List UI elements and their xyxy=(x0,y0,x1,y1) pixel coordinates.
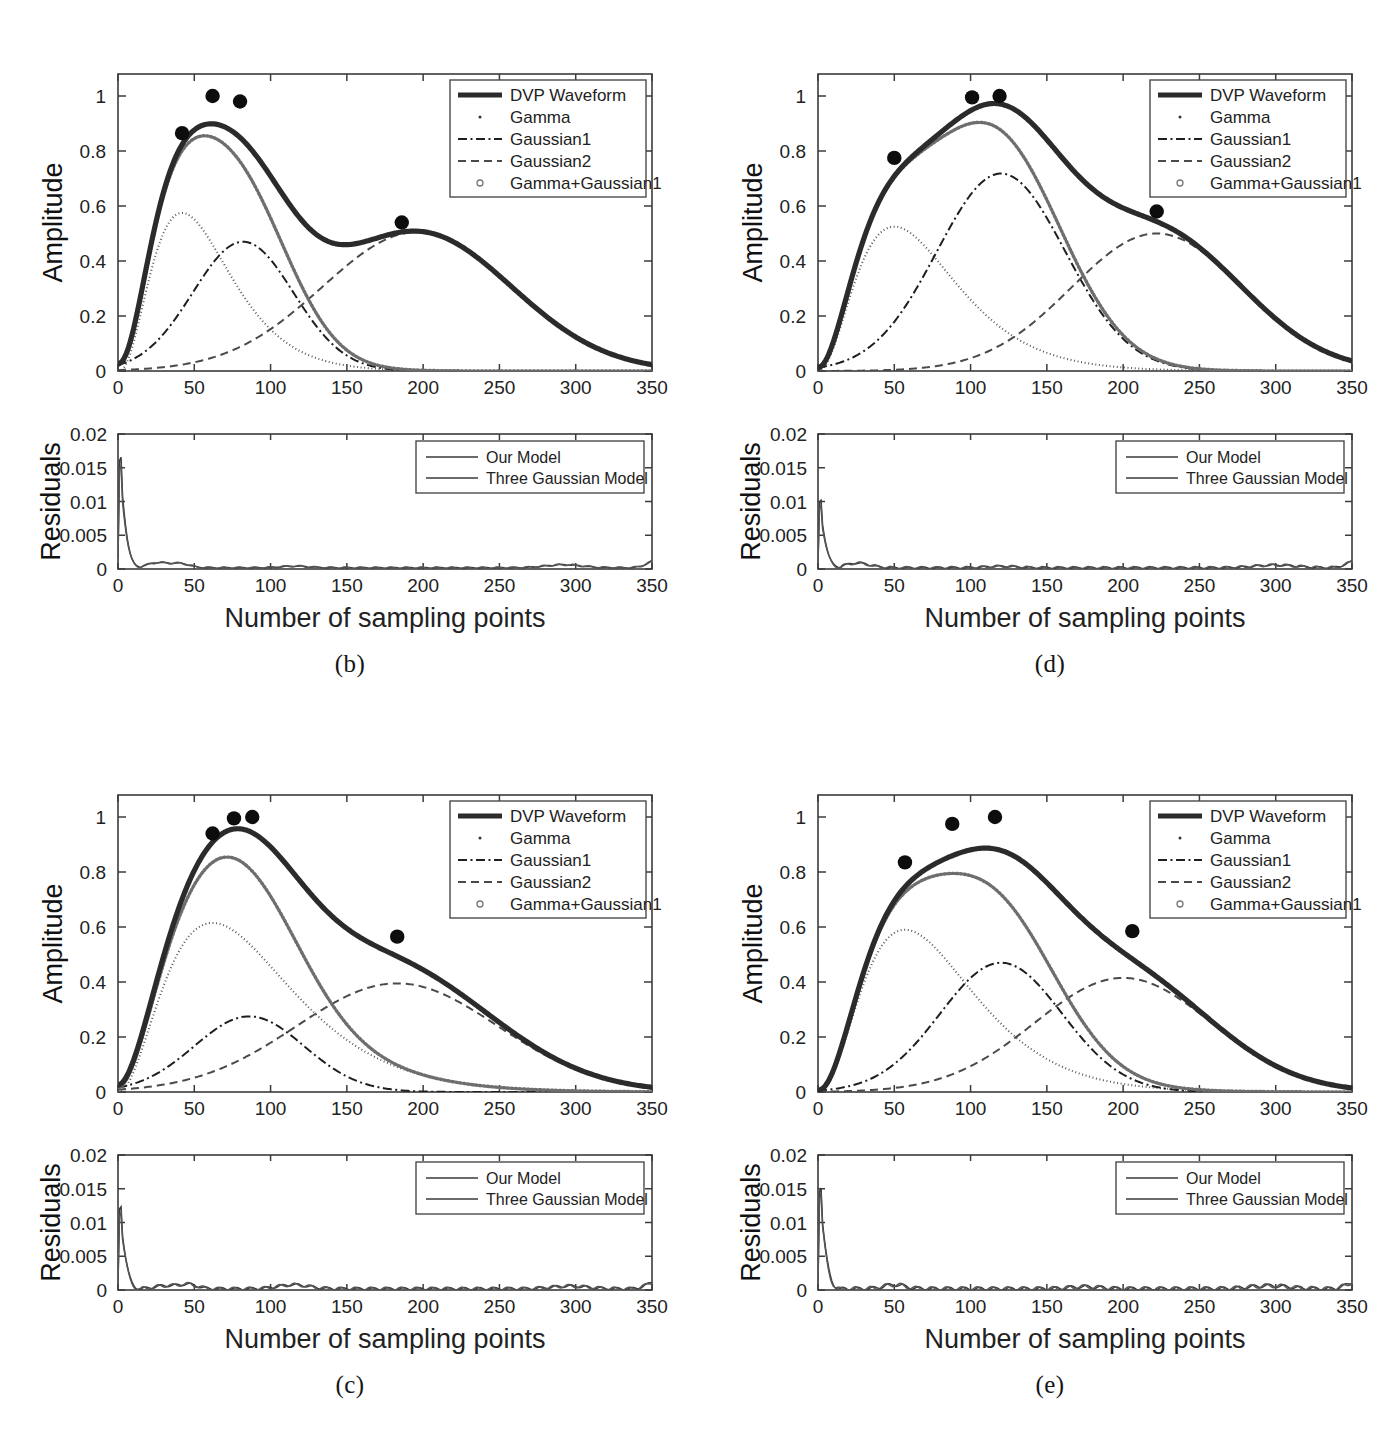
x-tick-label: 250 xyxy=(484,1296,516,1317)
feature-point-marker xyxy=(395,215,409,229)
x-tick-label: 0 xyxy=(113,377,124,398)
panel-e: 05010015020025030035000.20.40.60.81Ampli… xyxy=(700,721,1400,1442)
x-tick-label: 350 xyxy=(636,575,668,596)
x-tick-label: 350 xyxy=(1336,575,1368,596)
x-tick-label: 150 xyxy=(1031,1296,1063,1317)
x-tick-label: 200 xyxy=(407,575,439,596)
x-tick-label: 250 xyxy=(484,575,516,596)
amplitude-chart-b: 05010015020025030035000.20.40.60.81Ampli… xyxy=(40,50,660,415)
y-tick-label: 0.005 xyxy=(59,525,107,546)
residuals-plot: 05010015020025030035000.0050.010.0150.02… xyxy=(40,1141,660,1356)
y-tick-label: 0 xyxy=(96,1280,107,1301)
legend-label: Gamma xyxy=(510,108,571,127)
x-tick-label: 100 xyxy=(955,1098,987,1119)
feature-point-marker xyxy=(245,810,259,824)
x-tick-label: 100 xyxy=(255,377,287,398)
x-axis-title: Number of sampling points xyxy=(224,1324,545,1354)
y-tick-label: 1 xyxy=(95,807,106,828)
y-axis-title: Amplitude xyxy=(38,883,68,1003)
y-tick-label: 1 xyxy=(795,807,806,828)
figure-panel-grid: 05010015020025030035000.20.40.60.81Ampli… xyxy=(0,0,1400,1442)
y-tick-label: 0.2 xyxy=(80,306,106,327)
curve-gaussian2 xyxy=(118,232,652,370)
y-tick-label: 0.6 xyxy=(780,196,806,217)
legend-label: Gaussian1 xyxy=(510,130,591,149)
amplitude-legend: DVP WaveformGammaGaussian1Gaussian2Gamma… xyxy=(1150,801,1362,918)
feature-point-marker xyxy=(992,89,1006,103)
x-tick-label: 150 xyxy=(1031,377,1063,398)
legend-label: Gaussian2 xyxy=(1210,873,1291,892)
x-tick-label: 200 xyxy=(407,377,439,398)
x-tick-label: 100 xyxy=(255,1098,287,1119)
feature-point-marker xyxy=(227,811,241,825)
y-tick-label: 0.8 xyxy=(80,862,106,883)
y-tick-label: 0.4 xyxy=(780,251,807,272)
residual-curve xyxy=(118,1213,652,1290)
amplitude-chart-d: 05010015020025030035000.20.40.60.81Ampli… xyxy=(740,50,1360,415)
x-tick-label: 300 xyxy=(560,1098,592,1119)
curve-gaussian2 xyxy=(118,983,652,1089)
panel-d: 05010015020025030035000.20.40.60.81Ampli… xyxy=(700,0,1400,721)
curve-gaussian1 xyxy=(118,242,652,371)
residuals-legend: Our ModelThree Gaussian Model xyxy=(1116,441,1348,493)
x-tick-label: 250 xyxy=(1184,377,1216,398)
y-tick-label: 0.01 xyxy=(70,1213,107,1234)
legend-label: Three Gaussian Model xyxy=(486,470,648,487)
curve-gamma xyxy=(818,227,1352,371)
y-tick-label: 0.2 xyxy=(780,306,806,327)
x-tick-label: 200 xyxy=(407,1098,439,1119)
x-tick-label: 50 xyxy=(884,377,905,398)
feature-point-marker xyxy=(205,826,219,840)
x-tick-label: 350 xyxy=(636,377,668,398)
legend-label: DVP Waveform xyxy=(510,86,626,105)
legend-label: Three Gaussian Model xyxy=(486,1191,648,1208)
x-tick-label: 300 xyxy=(1260,1296,1292,1317)
x-tick-label: 50 xyxy=(184,1098,205,1119)
y-axis-title: Residuals xyxy=(736,442,766,561)
x-tick-label: 300 xyxy=(560,575,592,596)
x-tick-label: 0 xyxy=(813,575,824,596)
feature-point-marker xyxy=(175,126,189,140)
x-tick-label: 200 xyxy=(1107,377,1139,398)
residuals-legend: Our ModelThree Gaussian Model xyxy=(1116,1162,1348,1214)
y-tick-label: 0.2 xyxy=(780,1027,806,1048)
x-tick-label: 300 xyxy=(560,1296,592,1317)
curve-gaussian2 xyxy=(818,978,1352,1092)
y-tick-label: 1 xyxy=(95,86,106,107)
legend-label: Gamma xyxy=(1210,108,1271,127)
residual-curve xyxy=(118,1207,652,1290)
panel-caption-b: (b) xyxy=(0,650,700,678)
legend-label: Gaussian2 xyxy=(510,873,591,892)
x-tick-label: 300 xyxy=(560,377,592,398)
amplitude-chart-e: 05010015020025030035000.20.40.60.81Ampli… xyxy=(740,771,1360,1136)
amplitude-plot: 05010015020025030035000.20.40.60.81Ampli… xyxy=(40,50,660,415)
x-tick-label: 350 xyxy=(1336,1098,1368,1119)
legend-label: Three Gaussian Model xyxy=(1186,1191,1348,1208)
y-tick-label: 0.015 xyxy=(759,458,807,479)
legend-label: Our Model xyxy=(486,1170,561,1187)
x-tick-label: 200 xyxy=(1107,575,1139,596)
y-tick-label: 0.015 xyxy=(59,458,107,479)
x-tick-label: 0 xyxy=(113,575,124,596)
x-tick-label: 100 xyxy=(955,575,987,596)
x-tick-label: 250 xyxy=(484,1098,516,1119)
feature-point-marker xyxy=(205,89,219,103)
y-tick-label: 0.4 xyxy=(80,972,107,993)
y-axis-title: Residuals xyxy=(736,1163,766,1282)
feature-point-marker xyxy=(945,817,959,831)
curve-gamma xyxy=(818,930,1352,1092)
amplitude-chart-c: 05010015020025030035000.20.40.60.81Ampli… xyxy=(40,771,660,1136)
y-tick-label: 0.4 xyxy=(780,972,807,993)
feature-point-marker xyxy=(887,151,901,165)
residuals-plot: 05010015020025030035000.0050.010.0150.02… xyxy=(740,1141,1360,1356)
residuals-chart-d: 05010015020025030035000.0050.010.0150.02… xyxy=(740,420,1360,635)
x-axis-title: Number of sampling points xyxy=(224,603,545,633)
x-tick-label: 100 xyxy=(255,575,287,596)
legend-label: Gamma+Gaussian1 xyxy=(510,174,662,193)
legend-label: Gamma+Gaussian1 xyxy=(1210,174,1362,193)
x-tick-label: 350 xyxy=(636,1098,668,1119)
residuals-chart-e: 05010015020025030035000.0050.010.0150.02… xyxy=(740,1141,1360,1356)
y-tick-label: 0.02 xyxy=(70,1145,107,1166)
x-tick-label: 150 xyxy=(331,377,363,398)
x-tick-label: 250 xyxy=(484,377,516,398)
